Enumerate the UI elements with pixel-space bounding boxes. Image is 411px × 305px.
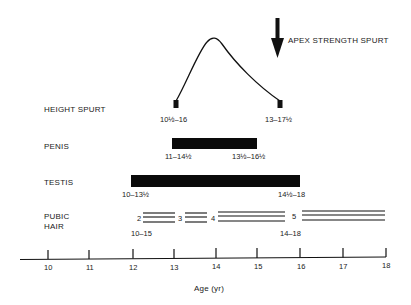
x-axis-label: Age (yr) (194, 284, 224, 293)
penis-bar (172, 138, 257, 149)
tick-label-13: 13 (170, 263, 178, 272)
pubic-start-range: 10–15 (131, 229, 152, 238)
tick-label-14: 14 (212, 262, 220, 271)
height-spurt-start-range: 10½–16 (160, 115, 187, 124)
maturation-diagram: HEIGHT SPURT PENIS TESTIS PUBIC HAIR APE… (0, 0, 411, 305)
pubic-end-range: 14–18 (280, 229, 301, 238)
penis-start-range: 11–14½ (165, 152, 192, 161)
tick-label-11: 11 (86, 263, 94, 272)
height-spurt-curve (176, 38, 280, 101)
row-label-hair: HAIR (44, 222, 64, 231)
testis-start-range: 10–13½ (122, 190, 150, 199)
x-axis (20, 248, 386, 260)
pubic-stage-4: 4 (211, 214, 215, 223)
tick-label-12: 12 (129, 263, 137, 272)
row-label-height-spurt: HEIGHT SPURT (44, 105, 106, 114)
row-label-pubic: PUBIC (44, 212, 69, 221)
height-spurt-end-marker (278, 100, 283, 108)
apex-strength-label: APEX STRENGTH SPURT (288, 36, 389, 45)
tick-label-16: 16 (297, 262, 305, 271)
pubic-stage-3: 3 (178, 214, 182, 223)
pubic-stage-2: 2 (137, 214, 141, 223)
down-arrow-icon (271, 18, 284, 58)
penis-end-range: 13½–16½ (232, 152, 266, 161)
testis-bar (131, 175, 300, 187)
tick-label-15: 15 (254, 262, 262, 271)
height-spurt-start-marker (174, 100, 179, 108)
tick-label-18: 18 (382, 261, 390, 270)
testis-end-range: 14½–18 (278, 190, 305, 199)
row-label-penis: PENIS (44, 142, 69, 151)
height-spurt-end-range: 13–17½ (265, 115, 293, 124)
tick-label-17: 17 (339, 262, 347, 271)
row-label-testis: TESTIS (44, 178, 73, 187)
pubic-stage-5: 5 (292, 212, 296, 221)
tick-label-10: 10 (44, 263, 52, 272)
